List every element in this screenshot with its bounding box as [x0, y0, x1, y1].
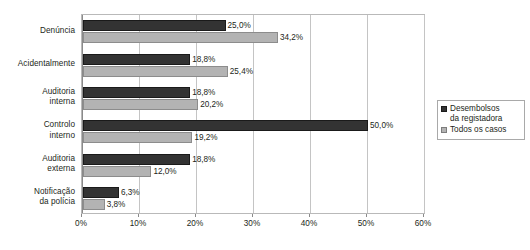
bar-1-4: [83, 166, 151, 177]
axis-tick-label: 10%: [118, 219, 158, 229]
bar-value-label: 20,2%: [198, 99, 223, 110]
bar-value-label: 12,0%: [151, 166, 176, 177]
bar-value-label: 34,2%: [278, 32, 303, 43]
gray-square-icon: [441, 127, 447, 133]
bar-1-5: [83, 199, 105, 210]
legend-label: Desembolsos da registadora: [450, 104, 502, 124]
bar-1-1: [83, 66, 228, 77]
bar-value-label: 18,8%: [190, 154, 215, 165]
axis-tick-label: 50%: [346, 219, 386, 229]
axis-tick-label: 40%: [289, 219, 329, 229]
category-label: Controlointerno: [0, 120, 75, 140]
bar-value-label: 19,2%: [192, 132, 217, 143]
bar-0-3: [83, 120, 368, 131]
bar-0-2: [83, 87, 190, 98]
bar-value-label: 6,3%: [119, 187, 140, 198]
bar-value-label: 18,8%: [190, 54, 215, 65]
bar-1-3: [83, 132, 192, 143]
category-label: Auditoriainterna: [0, 87, 75, 107]
bar-value-label: 50,0%: [368, 120, 393, 131]
axis-tick-label: 60%: [403, 219, 443, 229]
chart-legend: Desembolsos da registadoraTodos os casos: [437, 100, 525, 140]
gridline: [310, 15, 311, 213]
category-label: Acidentalmente: [0, 59, 75, 69]
gridline: [196, 15, 197, 213]
category-label: Denúncia: [0, 26, 75, 36]
axis-tick: [138, 214, 139, 217]
gridline: [139, 15, 140, 213]
bar-0-1: [83, 54, 190, 65]
axis-tick: [309, 214, 310, 217]
axis-tick-label: 20%: [175, 219, 215, 229]
horizontal-bar-chart: DenúnciaAcidentalmenteAuditoriainternaCo…: [0, 0, 530, 250]
bar-value-label: 25,0%: [226, 20, 251, 31]
axis-tick: [423, 214, 424, 217]
axis-tick: [195, 214, 196, 217]
legend-item: Todos os casos: [441, 125, 521, 135]
value-axis-line: [82, 15, 83, 213]
axis-tick-label: 30%: [232, 219, 272, 229]
bar-1-2: [83, 99, 198, 110]
bar-1-0: [83, 32, 278, 43]
axis-tick-label: 0%: [61, 219, 101, 229]
category-axis-labels: DenúnciaAcidentalmenteAuditoriainternaCo…: [0, 14, 75, 214]
bar-value-label: 18,8%: [190, 87, 215, 98]
axis-tick: [252, 214, 253, 217]
axis-tick: [366, 214, 367, 217]
category-label: Notificaçãoda polícia: [0, 187, 75, 207]
gridline: [253, 15, 254, 213]
category-label: Auditoriaexterna: [0, 154, 75, 174]
gridline: [367, 15, 368, 213]
bar-value-label: 25,4%: [228, 66, 253, 77]
axis-tick: [81, 214, 82, 217]
bar-0-4: [83, 154, 190, 165]
gridline: [424, 15, 425, 213]
dark-square-icon: [441, 106, 447, 112]
bar-0-5: [83, 187, 119, 198]
legend-item: Desembolsos da registadora: [441, 104, 521, 124]
legend-label: Todos os casos: [450, 125, 506, 135]
bar-0-0: [83, 20, 226, 31]
bar-value-label: 3,8%: [105, 199, 126, 210]
plot-area: 25,0%34,2%18,8%25,4%18,8%20,2%50,0%19,2%…: [81, 14, 425, 214]
